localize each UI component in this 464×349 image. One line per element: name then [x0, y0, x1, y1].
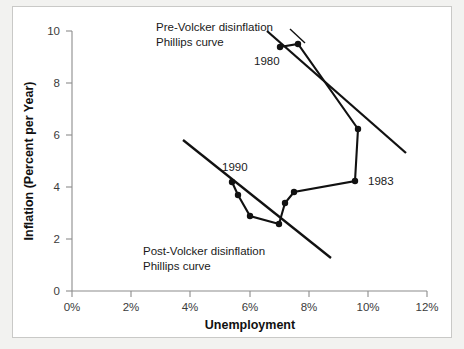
year-label-1983: 1983 [368, 175, 394, 187]
x-tick-label-4: 4% [182, 301, 199, 313]
year-label-1990: 1990 [222, 161, 248, 173]
inflation-unemployment-path [232, 44, 358, 224]
x-tick-label-8: 8% [301, 301, 318, 313]
pre-volcker-annotation-line2: Phillips curve [156, 36, 224, 48]
post-volcker-annotation-line1: Post-Volcker disinflation [143, 245, 265, 257]
y-tick-label-0: 0 [54, 285, 60, 297]
pre-volcker-annotation-line1: Pre-Volcker disinflation [156, 21, 273, 33]
y-axis-title: Inflation (Percent per Year) [22, 82, 36, 241]
y-tick-label-4: 4 [54, 181, 61, 193]
y-tick-label-8: 8 [54, 77, 60, 89]
figure-root: 10 8 6 4 2 0 0% 2% 4% 6% 8% 10% 12% [0, 0, 464, 349]
x-tick-label-0: 0% [64, 301, 81, 313]
x-tick-label-10: 10% [356, 301, 379, 313]
y-tick-label-2: 2 [54, 233, 60, 245]
x-tick-label-2: 2% [123, 301, 140, 313]
pre-volcker-trend-line [267, 31, 406, 153]
x-tick-label-12: 12% [415, 301, 438, 313]
chart-card: 10 8 6 4 2 0 0% 2% 4% 6% 8% 10% 12% [12, 6, 452, 338]
year-label-1980: 1980 [254, 55, 280, 67]
y-axis-ticks [66, 31, 72, 291]
x-axis-ticks [72, 291, 427, 297]
post-volcker-trend-line [183, 140, 331, 258]
x-tick-label-6: 6% [242, 301, 259, 313]
post-volcker-annotation-line2: Phillips curve [143, 260, 211, 272]
x-axis-title: Unemployment [205, 318, 296, 332]
data-markers [229, 41, 361, 227]
y-tick-label-10: 10 [47, 25, 60, 37]
y-tick-label-6: 6 [54, 129, 60, 141]
phillips-curve-chart: 10 8 6 4 2 0 0% 2% 4% 6% 8% 10% 12% [13, 7, 451, 337]
